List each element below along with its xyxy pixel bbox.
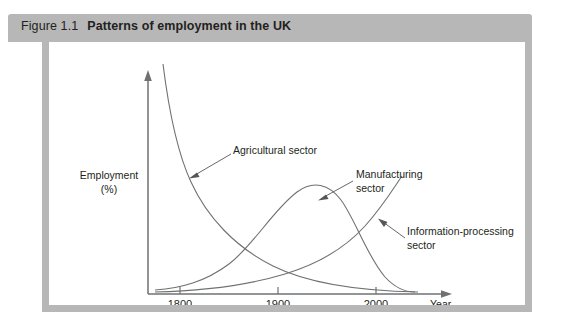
figure-number: Figure 1.1 [21,19,78,33]
figure-border-right [525,42,532,312]
curve-manufacturing-sector [155,185,415,292]
figure-page: Figure 1.1Patterns of employment in the … [0,0,567,330]
x-tick-label-1900: 1900 [266,298,290,305]
figure-border-left [42,42,49,312]
annotation-manufacturing-sector: Manufacturing sector [318,168,423,201]
x-axis-title: Year [430,298,452,305]
information-annotation-label-line2: sector [407,239,436,251]
figure-border-bottom [42,305,532,312]
figure-title: Figure 1.1Patterns of employment in the … [21,19,291,33]
agricultural-annotation-label: Agricultural sector [233,144,318,156]
y-axis-arrowhead [144,70,152,81]
y-axis-title-line2: (%) [101,183,117,195]
figure-caption: Patterns of employment in the UK [87,19,291,33]
figure-frame: Figure 1.1Patterns of employment in the … [8,14,532,312]
x-axis-arrowhead [441,290,452,298]
information-annotation-arrowhead [378,219,388,228]
manufacturing-annotation-label-line1: Manufacturing [356,168,423,180]
annotation-agricultural-sector: Agricultural sector [189,144,318,179]
annotation-information-processing-sector: Information-processing sector [378,219,514,252]
figure-title-bar: Figure 1.1Patterns of employment in the … [8,14,532,42]
employment-line-chart: 1800 1900 2000 Year Employment (%) Agric… [49,42,525,305]
y-axis [144,70,152,294]
y-axis-title-line1: Employment [80,169,138,181]
manufacturing-annotation-label-line2: sector [356,182,385,194]
x-tick-label-2000: 2000 [364,298,388,305]
x-tick-label-1800: 1800 [168,298,192,305]
information-annotation-label-line1: Information-processing [407,225,514,237]
